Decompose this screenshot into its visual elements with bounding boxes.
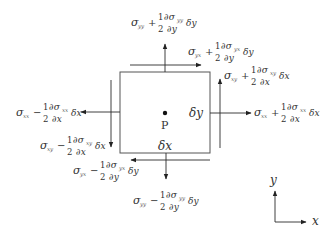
svg-text:1: 1 — [215, 41, 220, 51]
label-right-normal: σ xx + 1 2 ∂σ xx ∂x δx — [254, 102, 320, 124]
svg-text:xy: xy — [86, 140, 93, 147]
svg-text:∂x: ∂x — [260, 77, 270, 87]
svg-text:1: 1 — [281, 102, 286, 112]
svg-text:δx: δx — [309, 108, 320, 118]
svg-text:1: 1 — [67, 135, 72, 145]
svg-text:∂y: ∂y — [224, 53, 235, 63]
svg-text:2: 2 — [251, 77, 256, 87]
x-axis-label: x — [312, 214, 319, 228]
svg-text:∂y: ∂y — [169, 202, 180, 212]
svg-text:∂σ: ∂σ — [166, 190, 178, 200]
y-axis-label: y — [269, 173, 277, 187]
svg-text:∂y: ∂y — [109, 172, 120, 182]
label-left-shear: σ xy − 1 2 ∂σ xy ∂x δx — [40, 135, 106, 157]
svg-text:+: + — [205, 46, 213, 57]
stress-element-diagram: P δy δx y x σ yy + 1 2 ∂σ yy ∂y δy σ yx … — [0, 0, 332, 237]
svg-text:δx: δx — [71, 108, 82, 118]
svg-text:2: 2 — [215, 53, 220, 63]
svg-text:1: 1 — [251, 65, 256, 75]
svg-text:−: − — [57, 140, 65, 151]
svg-text:2: 2 — [43, 114, 48, 124]
point-p-dot — [163, 111, 167, 115]
svg-text:xx: xx — [62, 107, 69, 113]
svg-text:δx: δx — [95, 141, 106, 151]
point-label: P — [161, 119, 169, 132]
svg-text:yx: yx — [118, 165, 126, 172]
label-right-shear: σ xy + 1 2 ∂σ xy ∂x δx — [224, 65, 290, 87]
svg-text:−: − — [90, 165, 98, 176]
svg-text:1: 1 — [43, 102, 48, 112]
svg-text:1: 1 — [158, 12, 163, 22]
svg-text:xx: xx — [261, 113, 268, 119]
svg-text:2: 2 — [67, 147, 72, 157]
label-top-shear: σ yx + 1 2 ∂σ yx ∂y δy — [188, 41, 254, 63]
svg-text:δy: δy — [188, 196, 199, 206]
svg-text:∂x: ∂x — [52, 114, 62, 124]
svg-text:xy: xy — [270, 70, 277, 77]
svg-text:∂y: ∂y — [167, 24, 178, 34]
label-left-normal: σ xx − 1 2 ∂σ xx ∂x δx — [16, 102, 82, 124]
svg-text:1: 1 — [100, 160, 105, 170]
label-top-normal: σ yy + 1 2 ∂σ yy ∂y δy — [131, 12, 197, 34]
svg-text:δy: δy — [186, 18, 197, 28]
svg-text:2: 2 — [160, 202, 165, 212]
svg-text:yy: yy — [176, 17, 184, 24]
svg-text:2: 2 — [281, 114, 286, 124]
svg-text:δy: δy — [243, 47, 254, 57]
svg-text:yy: yy — [178, 195, 186, 202]
svg-text:+: + — [271, 107, 279, 118]
coordinate-axes: y x — [269, 173, 319, 228]
svg-text:∂σ: ∂σ — [73, 135, 85, 145]
svg-text:∂x: ∂x — [76, 147, 86, 157]
svg-text:xy: xy — [231, 76, 238, 83]
svg-text:+: + — [241, 70, 249, 81]
svg-text:2: 2 — [100, 172, 105, 182]
svg-text:∂σ: ∂σ — [221, 41, 233, 51]
svg-text:xy: xy — [47, 146, 54, 153]
height-label: δy — [189, 106, 203, 120]
svg-text:yx: yx — [79, 171, 87, 178]
svg-text:∂σ: ∂σ — [49, 102, 61, 112]
svg-text:δy: δy — [128, 166, 139, 176]
svg-text:δx: δx — [279, 71, 290, 81]
svg-text:yx: yx — [233, 46, 241, 53]
svg-text:∂σ: ∂σ — [164, 12, 176, 22]
svg-text:yx: yx — [194, 52, 202, 59]
svg-text:yy: yy — [137, 23, 145, 30]
svg-text:xx: xx — [300, 107, 307, 113]
svg-text:xx: xx — [23, 113, 30, 119]
svg-text:∂σ: ∂σ — [287, 102, 299, 112]
svg-text:∂x: ∂x — [290, 114, 300, 124]
svg-text:1: 1 — [160, 190, 165, 200]
svg-text:∂σ: ∂σ — [106, 160, 118, 170]
svg-text:yy: yy — [139, 201, 147, 208]
label-bottom-normal: σ yy − 1 2 ∂σ yy ∂y δy — [133, 190, 199, 212]
svg-text:+: + — [148, 17, 156, 28]
svg-text:−: − — [150, 195, 158, 206]
svg-text:2: 2 — [158, 24, 163, 34]
svg-text:−: − — [33, 107, 41, 118]
label-bottom-shear: σ yx − 1 2 ∂σ yx ∂y δy — [73, 160, 139, 182]
width-label: δx — [158, 139, 172, 153]
svg-text:∂σ: ∂σ — [257, 65, 269, 75]
